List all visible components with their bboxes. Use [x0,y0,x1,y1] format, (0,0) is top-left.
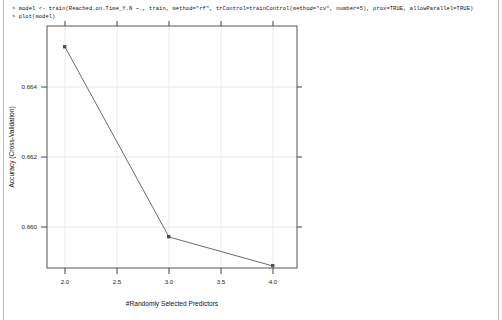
xtick-label: 3.5 [217,278,226,285]
model-tuning-plot: 2.0 2.5 3.0 3.5 4.0 0.660 0.662 0.664 #R… [0,18,340,320]
document-page: > model <- train(Reached.on.Time_Y.N ~.,… [0,0,502,320]
console-line-train-command: > model <- train(Reached.on.Time_Y.N ~.,… [12,5,498,13]
plot-yaxis-ticklabels: 0.660 0.662 0.664 [22,83,38,230]
ytick-label: 0.662 [22,153,38,160]
yaxis-title: Accuracy (Cross-Validation) [8,106,16,187]
ytick-label: 0.664 [22,83,38,90]
page-right-border [498,0,499,320]
xaxis-title: #Randomly Selected Predictors [126,300,219,308]
plot-xaxis-ticklabels: 2.0 2.5 3.0 3.5 4.0 [61,278,278,285]
plot-xaxis-ticks-top [65,21,273,26]
xtick-label: 4.0 [269,278,278,285]
xtick-label: 2.5 [113,278,122,285]
data-point-marker [167,235,170,238]
plot-yaxis-ticks-left [41,87,47,227]
xtick-label: 2.0 [61,278,70,285]
data-point-marker [271,264,274,267]
plot-xaxis-ticks-bottom [65,268,273,274]
plot-panel-background [47,26,297,268]
data-point-marker [63,45,66,48]
plot-canvas: 2.0 2.5 3.0 3.5 4.0 0.660 0.662 0.664 #R… [0,18,340,320]
xtick-label: 3.0 [165,278,174,285]
ytick-label: 0.660 [22,223,38,230]
plot-yaxis-ticks-right [297,87,302,227]
